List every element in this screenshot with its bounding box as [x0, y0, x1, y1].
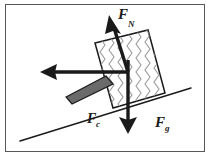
normal-force-label: F N — [117, 6, 135, 29]
contact-force-label: F c — [86, 111, 100, 129]
free-body-diagram: F N F c F g — [0, 0, 210, 157]
normal-force-subscript: N — [127, 19, 135, 29]
gravity-force-subscript: g — [164, 123, 170, 133]
normal-force-symbol: F — [117, 6, 128, 22]
inclined-surface-line — [20, 88, 191, 141]
figure-canvas: F N F c F g — [0, 0, 210, 157]
contact-force-subscript: c — [96, 119, 100, 129]
gray-rod — [66, 76, 113, 104]
gravity-force-label: F g — [154, 114, 170, 133]
gravity-force-symbol: F — [154, 114, 165, 130]
